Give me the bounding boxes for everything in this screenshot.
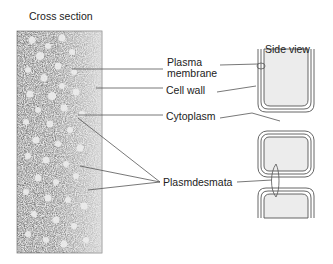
label-cytoplasm: Cytoplasm [166, 110, 216, 122]
cross-section-title: Cross section [29, 10, 93, 22]
side-view-title: Side view [265, 43, 310, 55]
plasmodesmata-diagram: Cross section Side view Plasma membrane … [0, 0, 333, 264]
cross-section-micrograph [17, 31, 102, 253]
diagram-graphics [0, 0, 333, 264]
leader-lines [72, 64, 280, 190]
label-plasma-membrane-line2: membrane [167, 67, 217, 79]
label-cell-wall: Cell wall [166, 84, 205, 96]
label-plasmodesmata: Plasmdesmata [163, 176, 232, 188]
side-view-cells [257, 49, 314, 218]
